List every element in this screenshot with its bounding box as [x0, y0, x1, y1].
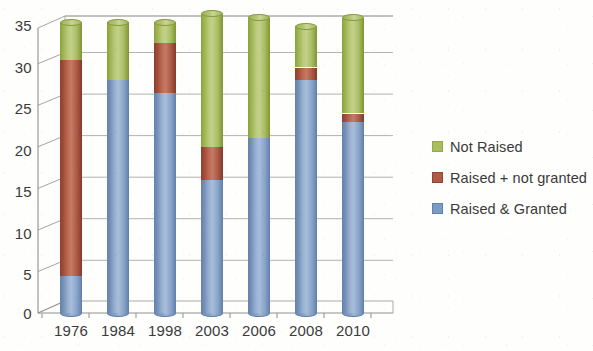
segment-raised-not-granted: [201, 147, 223, 180]
segment-raised-not-granted: [60, 60, 82, 276]
x-tick-label: 1998: [148, 322, 182, 339]
x-axis-labels: 1976 1984 1998 2003 2006 2008 2010: [0, 322, 410, 350]
x-tick-label: 1976: [54, 322, 88, 339]
red-swatch-icon: [432, 172, 443, 183]
segment-raised-granted: [342, 122, 364, 313]
segment-raised-granted: [107, 80, 129, 313]
segment-not-raised: [60, 22, 82, 60]
green-swatch-icon: [432, 141, 443, 152]
legend-item-raised-not-granted[interactable]: Raised + not granted: [432, 162, 590, 193]
x-tick-label: 2010: [336, 322, 370, 339]
segment-raised-not-granted: [342, 114, 364, 122]
legend-item-raised-granted[interactable]: Raised & Granted: [432, 193, 590, 224]
cylinder-top-cap: [107, 19, 129, 26]
x-tick-label: 2003: [195, 322, 229, 339]
segment-not-raised: [154, 22, 176, 43]
legend-label: Not Raised: [450, 139, 523, 155]
bars-layer: [0, 0, 410, 351]
segment-not-raised: [295, 26, 317, 67]
cylinder-top-cap: [154, 19, 176, 26]
segment-raised-granted: [60, 276, 82, 313]
legend-label: Raised + not granted: [450, 170, 587, 186]
segment-raised-granted: [248, 138, 270, 313]
segment-not-raised: [107, 22, 129, 80]
segment-raised-granted: [154, 93, 176, 313]
segment-raised-granted: [295, 80, 317, 313]
segment-not-raised: [248, 18, 270, 139]
legend-label: Raised & Granted: [450, 201, 567, 217]
segment-raised-not-granted: [295, 68, 317, 81]
x-tick-label: 2006: [242, 322, 276, 339]
segment-not-raised: [342, 18, 364, 114]
stacked-bar-chart: 35 30 25 20 15 10 5 0: [0, 0, 593, 351]
legend-item-not-raised[interactable]: Not Raised: [432, 131, 590, 162]
chart-legend: Not Raised Raised + not granted Raised &…: [432, 131, 590, 224]
cylinder-top-cap: [60, 19, 82, 26]
segment-not-raised: [201, 14, 223, 147]
x-tick-label: 1984: [101, 322, 135, 339]
cylinder-top-cap: [295, 23, 317, 30]
blue-swatch-icon: [432, 203, 443, 214]
segment-raised-not-granted: [154, 43, 176, 93]
x-tick-label: 2008: [289, 322, 323, 339]
segment-raised-granted: [201, 180, 223, 313]
